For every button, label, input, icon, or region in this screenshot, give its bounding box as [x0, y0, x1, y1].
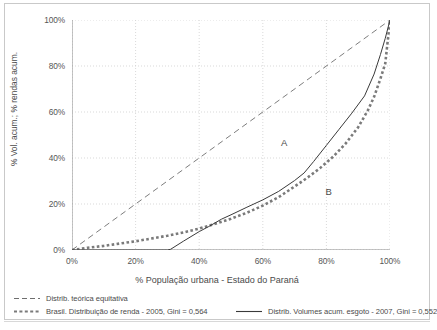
- annotation-a: A: [281, 137, 287, 148]
- y-tick-label: 80%: [31, 61, 65, 71]
- solid-line-icon: [236, 307, 262, 316]
- legend-entry-equity: Distrib. teórica equitativa: [14, 293, 128, 304]
- y-axis-title: % Vol. acum.; % rendas acum.: [9, 9, 19, 209]
- y-tick-label: 100%: [31, 15, 65, 25]
- x-tick-label: 0%: [52, 256, 92, 266]
- legend-label-sewage: Distrib. Volumes acum. esgoto - 2007, Gi…: [268, 307, 437, 316]
- x-tick-label: 100%: [370, 256, 410, 266]
- chart-legend: Distrib. teórica equitativa Brasil. Dist…: [14, 293, 422, 319]
- legend-row-1: Distrib. teórica equitativa: [14, 293, 422, 304]
- x-tick-label: 60%: [243, 256, 283, 266]
- legend-entry-sewage: Distrib. Volumes acum. esgoto - 2007, Gi…: [236, 306, 437, 317]
- legend-row-2: Brasil. Distribuição de renda - 2005, Gi…: [14, 306, 422, 317]
- y-tick-label: 40%: [31, 153, 65, 163]
- x-axis-title: % População urbana - Estado do Paraná: [0, 275, 434, 285]
- bottom-divider: [4, 321, 430, 322]
- x-tick-label: 80%: [306, 256, 346, 266]
- chart-canvas: [72, 20, 390, 250]
- legend-entry-income: Brasil. Distribuição de renda - 2005, Gi…: [14, 306, 208, 317]
- series-0: [72, 20, 390, 250]
- legend-label-equity: Distrib. teórica equitativa: [46, 294, 128, 303]
- annotation-b: B: [326, 186, 332, 197]
- dashed-line-icon: [14, 294, 40, 303]
- legend-label-income: Brasil. Distribuição de renda - 2005, Gi…: [46, 307, 208, 316]
- plot-area: A B: [72, 20, 390, 250]
- x-tick-label: 20%: [116, 256, 156, 266]
- x-tick-label: 40%: [179, 256, 219, 266]
- y-tick-label: 60%: [31, 107, 65, 117]
- y-tick-label: 20%: [31, 199, 65, 209]
- y-tick-label: 0%: [31, 245, 65, 255]
- dotted-square-line-icon: [14, 307, 40, 316]
- series-lines: [72, 20, 390, 250]
